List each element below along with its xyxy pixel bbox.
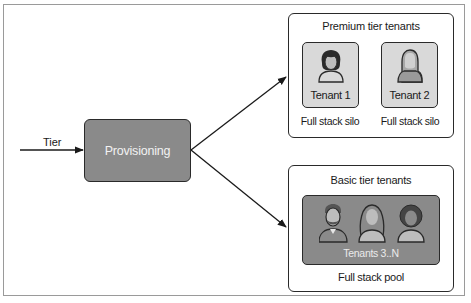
tenant-2-caption: Full stack silo xyxy=(374,115,446,127)
curly-hair-person-avatar-icon xyxy=(398,205,424,242)
tenant-1-label: Tenant 1 xyxy=(303,89,358,101)
basic-tier-title: Basic tier tenants xyxy=(289,174,453,186)
tenant-group-icons xyxy=(319,204,425,244)
long-hair-woman-avatar-icon xyxy=(359,205,385,242)
hooded-person-avatar-icon xyxy=(396,49,424,83)
woman-avatar-icon xyxy=(317,49,345,83)
tenant-2-card: Tenant 2 xyxy=(381,42,438,108)
arrow-to-basic xyxy=(191,150,286,227)
tenant-1-caption: Full stack silo xyxy=(294,115,366,127)
premium-tier-title: Premium tier tenants xyxy=(289,20,453,32)
bearded-man-avatar-icon xyxy=(319,204,347,242)
tenant-pool-card: Tenants 3..N xyxy=(302,195,440,265)
tenant-1-card: Tenant 1 xyxy=(302,42,359,108)
tenant-pool-label: Tenants 3..N xyxy=(303,247,439,259)
arrow-to-premium xyxy=(191,77,286,150)
provisioning-label: Provisioning xyxy=(105,144,171,158)
tenant-2-label: Tenant 2 xyxy=(382,89,437,101)
tier-label: Tier xyxy=(43,136,62,148)
premium-tier-group: Premium tier tenants Tenant 1 Full stack… xyxy=(288,13,454,138)
basic-tier-group: Basic tier tenants Tenants 3..N Full xyxy=(288,165,454,292)
provisioning-box: Provisioning xyxy=(84,119,191,182)
tenant-pool-caption: Full stack pool xyxy=(289,271,453,283)
